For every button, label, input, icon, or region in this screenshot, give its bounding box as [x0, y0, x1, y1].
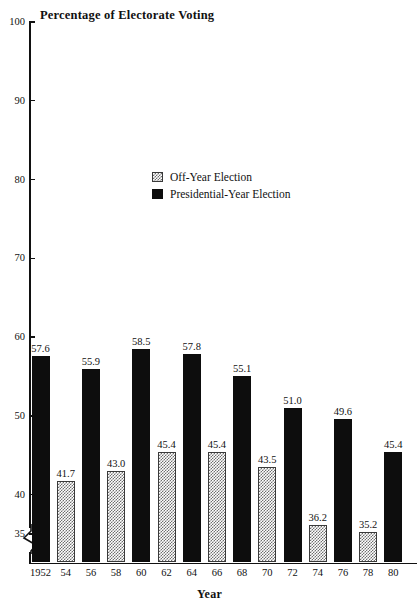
- bar-76: [334, 419, 352, 563]
- bar-value-label: 41.7: [51, 468, 81, 479]
- x-axis-tick-label: 80: [377, 567, 409, 579]
- legend-item-label: Off-Year Election: [170, 171, 252, 183]
- bar-62: [158, 452, 176, 562]
- legend-item: Presidential-Year Election: [152, 185, 291, 202]
- bar-64: [183, 354, 201, 562]
- chart-legend: Off-Year ElectionPresidential-Year Elect…: [152, 168, 291, 202]
- bar-1952: [32, 356, 50, 563]
- legend-swatch-icon: [152, 172, 163, 182]
- bar-74: [309, 525, 327, 563]
- bar-66: [208, 452, 226, 562]
- bar-56: [82, 369, 100, 562]
- bar-68: [233, 376, 251, 563]
- bar-value-label: 43.0: [101, 458, 131, 469]
- bar-80: [384, 452, 402, 562]
- bar-value-label: 36.2: [303, 512, 333, 523]
- legend-swatch-icon: [152, 189, 163, 199]
- bar-72: [284, 408, 302, 563]
- bar-70: [258, 467, 276, 562]
- bar-value-label: 57.8: [177, 341, 207, 352]
- bar-value-label: 55.1: [227, 363, 257, 374]
- bar-value-label: 45.4: [152, 439, 182, 450]
- bar-value-label: 45.4: [378, 439, 408, 450]
- bar-value-label: 43.5: [252, 454, 282, 465]
- x-axis-title: Year: [0, 587, 419, 602]
- bar-54: [57, 481, 75, 562]
- bar-value-label: 57.6: [26, 343, 56, 354]
- bar-60: [132, 349, 150, 563]
- plot-area: 57.641.755.943.058.545.457.845.455.143.5…: [0, 0, 419, 608]
- bar-value-label: 49.6: [328, 406, 358, 417]
- bar-value-label: 35.2: [353, 519, 383, 530]
- bar-78: [359, 532, 377, 562]
- bar-value-label: 45.4: [202, 439, 232, 450]
- bar-value-label: 51.0: [278, 395, 308, 406]
- bar-chart: Percentage of Electorate Voting 10090807…: [0, 0, 419, 608]
- bar-value-label: 58.5: [126, 336, 156, 347]
- legend-item-label: Presidential-Year Election: [170, 188, 291, 200]
- bar-58: [107, 471, 125, 563]
- bar-value-label: 55.9: [76, 356, 106, 367]
- legend-item: Off-Year Election: [152, 168, 291, 185]
